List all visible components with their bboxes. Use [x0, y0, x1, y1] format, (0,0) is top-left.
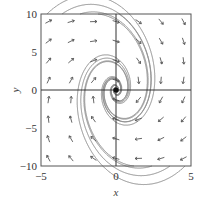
y-tick-label: 5 — [32, 46, 38, 58]
x-tick-label: 0 — [113, 170, 119, 182]
x-tick-label: −5 — [35, 170, 47, 182]
y-tick-label: −5 — [25, 122, 37, 134]
y-axis-ticks: −10−50510 — [20, 8, 38, 172]
y-axis-title: y — [9, 87, 21, 93]
x-axis-ticks: −505 — [35, 170, 194, 182]
x-tick-label: 5 — [188, 170, 194, 182]
trajectory — [80, 12, 148, 119]
equilibrium-point — [113, 87, 118, 92]
y-tick-label: 0 — [32, 84, 38, 96]
trajectory — [84, 61, 152, 168]
x-axis-title: x — [113, 186, 119, 198]
phase-portrait-chart: −10−50510 −505 x y — [0, 0, 202, 208]
trajectory — [103, 14, 151, 122]
y-tick-label: 10 — [26, 8, 38, 20]
